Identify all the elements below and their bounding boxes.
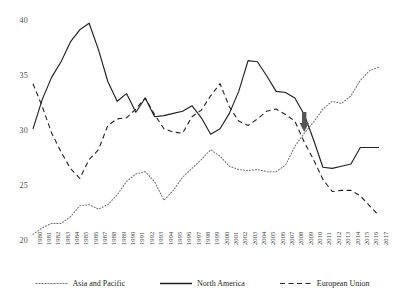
x-tick-label: 1991 [138,232,145,245]
x-tick-label: 1980 [36,232,43,245]
x-tick-label: 1997 [195,232,202,245]
x-tick-label: 1983 [64,232,71,245]
x-tick-label: 2001 [232,232,239,245]
x-tick-label: 2004 [260,232,267,245]
x-tick-label: 2006 [279,232,286,245]
x-tick-label: 1985 [82,232,89,245]
x-tick-label: 2007 [288,232,295,245]
x-tick-label: 1992 [148,232,155,245]
x-tick-label: 2008 [297,232,304,245]
x-tick-label: 1993 [157,232,164,245]
x-tick-label: 1982 [54,232,61,245]
solid-line-key [159,279,193,288]
x-tick-label: 2014 [354,232,361,245]
x-tick-label: 1998 [204,232,211,245]
x-tick-label: 2012 [335,232,342,245]
x-tick-label: 1996 [185,232,192,245]
y-tick-label: 30 [8,126,28,135]
x-tick-label: 1995 [176,232,183,245]
y-tick-label: 35 [8,71,28,80]
x-tick-label: 1999 [213,232,220,245]
y-tick-label: 20 [8,236,28,245]
line-chart: 2025303540 19801981198219831984198519861… [0,0,404,299]
x-tick-label: 1986 [92,232,99,245]
legend-label: European Union [317,279,370,288]
x-tick-label: 1989 [120,232,127,245]
series-line-north-america [33,23,379,168]
y-tick-label: 40 [8,16,28,25]
legend-item-asia-and-pacific: Asia and Pacific [35,279,125,288]
legend-label: North America [197,279,245,288]
x-tick-label: 1984 [73,232,80,245]
series-line-asia-and-pacific [33,67,379,234]
x-tick-label: 2003 [251,232,258,245]
chart-plot-area [0,0,404,299]
x-tick-label: 2005 [269,232,276,245]
chart-legend: Asia and PacificNorth AmericaEuropean Un… [0,272,404,294]
legend-item-european-union: European Union [279,279,370,288]
x-tick-label: 1987 [101,232,108,245]
legend-label: Asia and Pacific [73,279,125,288]
legend-item-north-america: North America [159,279,245,288]
x-tick-label: 2009 [307,232,314,245]
dashed-line-key [279,279,313,288]
x-tick-label: 1988 [110,232,117,245]
dotted-line-key [35,279,69,288]
x-tick-label: 2016 [372,232,379,245]
x-tick-label: 2000 [223,232,230,245]
x-tick-label: 2011 [325,232,332,245]
x-tick-label: 2017 [382,232,389,245]
series-line-european-union [33,84,379,216]
x-tick-label: 1981 [45,232,52,245]
x-tick-label: 2013 [344,232,351,245]
x-tick-label: 1994 [167,232,174,245]
x-tick-label: 2002 [241,232,248,245]
x-tick-label: 1990 [129,232,136,245]
x-tick-label: 2010 [316,232,323,245]
x-tick-label: 2015 [363,232,370,245]
y-tick-label: 25 [8,181,28,190]
